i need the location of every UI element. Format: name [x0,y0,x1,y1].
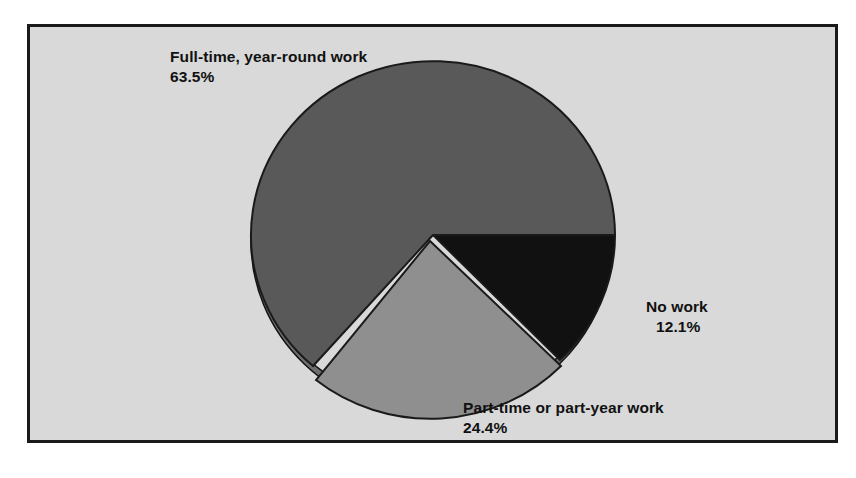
pie-label-no-work-value: 12.1% [656,317,708,337]
pie-label-full-time-value: 63.5% [170,67,367,87]
pie-chart-plot-area [30,27,835,440]
pie-label-part-time: Part-time or part-year work 24.4% [463,398,664,439]
pie-label-no-work-name: No work [646,297,708,317]
pie-label-full-time-name: Full-time, year-round work [170,47,367,67]
chart-frame: Full-time, year-round work 63.5% No work… [27,24,838,443]
pie-label-part-time-name: Part-time or part-year work [463,398,664,418]
pie-label-part-time-value: 24.4% [463,418,664,438]
pie-label-no-work: No work 12.1% [646,297,708,338]
pie-label-full-time: Full-time, year-round work 63.5% [170,47,367,88]
